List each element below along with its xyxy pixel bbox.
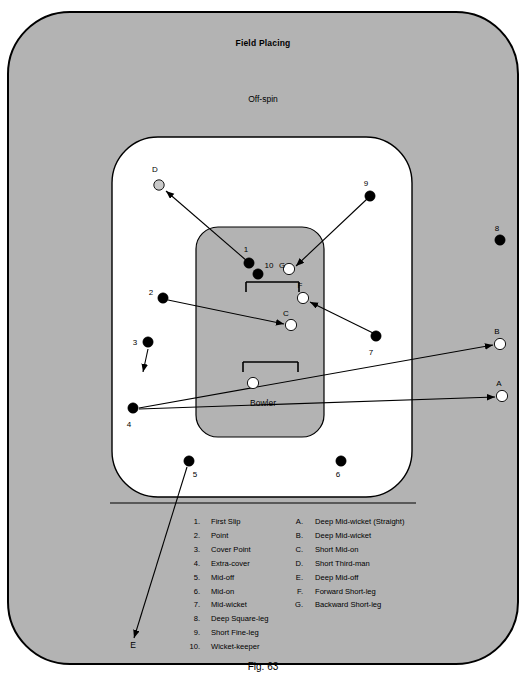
legend-item-key-7: 7. [194, 600, 200, 609]
fielder-marker-bowler[interactable] [247, 377, 258, 388]
legend-item-key-E: E. [296, 573, 303, 582]
legend-item-text-9: Short Fine-leg [211, 628, 259, 637]
fielder-marker-A[interactable] [496, 390, 507, 401]
fielder-label-1: 1 [244, 245, 249, 254]
figure-title: Field Placing [235, 38, 290, 48]
legend-item-key-C: C. [295, 545, 303, 554]
figure-caption: Fig. 63 [248, 661, 279, 672]
fielder-label-9: 9 [364, 179, 369, 188]
legend-item-text-6: Mid-on [211, 587, 234, 596]
legend-item-text-A: Deep Mid-wicket (Straight) [315, 517, 405, 526]
fielder-marker-2[interactable] [158, 293, 168, 303]
legend-item-text-4: Extra-cover [211, 559, 250, 568]
bowling-type-label: Off-spin [248, 94, 278, 104]
fielder-marker-D[interactable] [154, 180, 164, 190]
fielder-label-3: 3 [133, 338, 138, 347]
field-placing-diagram: Field Placing Off-spin Bowler 1102345678… [0, 0, 526, 676]
fielder-marker-F[interactable] [297, 292, 308, 303]
legend-item-text-10: Wicket-keeper [211, 642, 260, 651]
fielder-label-10: 10 [265, 261, 274, 270]
legend-item-text-2: Point [211, 531, 229, 540]
legend-item-key-10: 10. [189, 642, 200, 651]
legend-item-key-B: B. [296, 531, 303, 540]
legend-item-key-4: 4. [194, 559, 200, 568]
outside-marker-layer: E [130, 640, 136, 650]
fielder-label-4: 4 [127, 420, 132, 429]
legend-item-text-3: Cover Point [211, 545, 252, 554]
fielder-marker-C[interactable] [285, 319, 296, 330]
legend-item-key-6: 6. [194, 587, 200, 596]
fielder-marker-5[interactable] [184, 456, 194, 466]
legend-item-text-7: Mid-wicket [211, 600, 248, 609]
fielder-label-6: 6 [336, 470, 341, 479]
fielder-marker-1[interactable] [244, 258, 254, 268]
fielder-label-G: G [279, 261, 285, 270]
fielder-marker-8[interactable] [495, 235, 505, 245]
legend-item-key-5: 5. [194, 573, 200, 582]
legend-item-text-C: Short Mid-on [315, 545, 358, 554]
legend-item-text-8: Deep Square-leg [211, 614, 268, 623]
legend-item-text-F: Forward Short-leg [315, 587, 376, 596]
legend-item-key-2: 2. [194, 531, 200, 540]
fielder-label-8: 8 [495, 224, 500, 233]
legend-item-text-G: Backward Short-leg [315, 600, 381, 609]
fielder-label-A: A [496, 379, 502, 388]
fielder-marker-4[interactable] [128, 403, 138, 413]
fielder-label-D: D [152, 165, 158, 174]
fielder-label-7: 7 [369, 348, 374, 357]
fielder-marker-10[interactable] [253, 269, 263, 279]
legend-item-key-1: 1. [194, 517, 200, 526]
fielder-marker-9[interactable] [365, 191, 375, 201]
position-label-E: E [130, 640, 136, 650]
legend-item-key-9: 9. [194, 628, 200, 637]
bowler-label: Bowler [250, 398, 276, 408]
fielder-label-B: B [494, 327, 499, 336]
fielder-label-F: F [298, 281, 303, 290]
legend-item-text-B: Deep Mid-wicket [315, 531, 372, 540]
fielder-marker-6[interactable] [336, 456, 346, 466]
fielder-marker-7[interactable] [371, 331, 381, 341]
legend-item-text-E: Deep Mid-off [315, 573, 359, 582]
fielder-marker-B[interactable] [494, 338, 505, 349]
legend-item-key-A: A. [296, 517, 303, 526]
legend-item-text-D: Short Third-man [315, 559, 370, 568]
fielder-label-C: C [283, 309, 289, 318]
legend-item-text-1: First Slip [211, 517, 241, 526]
fielder-bowler[interactable] [247, 377, 258, 388]
fielder-marker-3[interactable] [143, 337, 153, 347]
legend-item-key-D: D. [295, 559, 303, 568]
figure-canvas: Field Placing Off-spin Bowler 1102345678… [0, 0, 526, 676]
legend-item-key-F: F. [297, 587, 303, 596]
legend-item-text-5: Mid-off [211, 573, 235, 582]
legend-item-key-3: 3. [194, 545, 200, 554]
fielder-label-2: 2 [149, 288, 154, 297]
legend-item-key-8: 8. [194, 614, 200, 623]
legend-item-key-G: G. [295, 600, 303, 609]
fielder-label-5: 5 [193, 470, 198, 479]
